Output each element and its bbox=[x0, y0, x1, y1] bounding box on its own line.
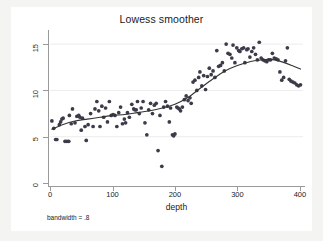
data-point bbox=[104, 106, 108, 110]
lowess-curve bbox=[52, 59, 301, 129]
data-point bbox=[198, 70, 202, 74]
x-tick-label: 400 bbox=[287, 190, 313, 199]
data-point bbox=[233, 61, 237, 65]
data-point bbox=[215, 49, 219, 53]
data-point bbox=[202, 74, 206, 78]
data-point bbox=[164, 100, 168, 104]
data-point bbox=[100, 104, 104, 108]
data-point bbox=[97, 109, 101, 113]
data-point bbox=[134, 108, 138, 112]
data-point bbox=[95, 100, 99, 104]
x-tick-label: 0 bbox=[37, 190, 63, 199]
data-point bbox=[278, 70, 282, 74]
gridlines bbox=[50, 44, 303, 137]
data-point bbox=[149, 102, 153, 106]
data-point bbox=[271, 52, 275, 56]
x-tick-label: 200 bbox=[162, 190, 188, 199]
data-point bbox=[139, 106, 143, 110]
scatter-plot-svg bbox=[50, 33, 303, 183]
data-point bbox=[206, 75, 210, 79]
data-point bbox=[204, 88, 208, 92]
data-point bbox=[130, 102, 134, 106]
data-point bbox=[145, 133, 149, 137]
data-point bbox=[224, 42, 228, 46]
data-point bbox=[160, 164, 164, 168]
x-tick-label: 100 bbox=[100, 190, 126, 199]
data-point bbox=[143, 121, 147, 125]
y-axis-line bbox=[48, 30, 49, 186]
data-point bbox=[108, 100, 112, 104]
data-point bbox=[231, 43, 235, 47]
data-point bbox=[209, 73, 213, 77]
data-point bbox=[221, 61, 225, 65]
y-tick-mark bbox=[43, 183, 48, 184]
data-point bbox=[121, 122, 125, 126]
x-axis-line bbox=[48, 186, 305, 187]
y-tick-label: 5 bbox=[32, 137, 40, 155]
data-point bbox=[211, 69, 215, 73]
data-point bbox=[248, 55, 252, 59]
data-point bbox=[115, 125, 119, 129]
data-point bbox=[167, 120, 171, 124]
data-point bbox=[127, 115, 131, 119]
data-point bbox=[61, 116, 65, 120]
figure-canvas: Lowess smoother Wet hole 1 depth bandwid… bbox=[0, 0, 323, 241]
data-point bbox=[299, 83, 303, 87]
data-point bbox=[50, 119, 54, 123]
data-point bbox=[79, 128, 83, 132]
data-point bbox=[98, 125, 102, 129]
data-point bbox=[207, 66, 211, 70]
data-point bbox=[282, 76, 286, 80]
y-tick-mark bbox=[43, 44, 48, 45]
data-point bbox=[124, 121, 128, 125]
data-point bbox=[156, 149, 160, 153]
data-point bbox=[55, 138, 59, 142]
data-point bbox=[151, 112, 155, 116]
data-point bbox=[179, 109, 183, 113]
data-point bbox=[141, 100, 145, 104]
data-point bbox=[86, 123, 90, 127]
data-point bbox=[117, 111, 121, 115]
data-point bbox=[257, 40, 261, 44]
data-point bbox=[122, 117, 126, 121]
data-point bbox=[189, 102, 193, 106]
y-tick-mark bbox=[43, 137, 48, 138]
data-point bbox=[68, 114, 72, 118]
data-point bbox=[93, 107, 97, 111]
data-point bbox=[89, 112, 93, 116]
data-point bbox=[71, 107, 75, 111]
y-tick-label: 15 bbox=[32, 44, 40, 62]
data-point bbox=[197, 76, 201, 80]
data-point bbox=[254, 52, 258, 56]
data-point bbox=[106, 120, 110, 124]
bandwidth-note: bandwidth = .8 bbox=[47, 214, 89, 221]
data-point bbox=[173, 132, 177, 136]
data-point bbox=[246, 47, 250, 51]
x-tick-label: 300 bbox=[224, 190, 250, 199]
data-point bbox=[242, 46, 246, 50]
chart-title: Lowess smoother bbox=[11, 13, 312, 25]
data-point bbox=[181, 105, 185, 109]
data-point bbox=[154, 102, 158, 106]
data-point bbox=[158, 114, 162, 118]
data-point bbox=[286, 46, 290, 50]
data-point bbox=[119, 105, 123, 109]
data-point bbox=[252, 46, 256, 50]
data-point bbox=[67, 139, 71, 143]
y-tick-mark bbox=[43, 90, 48, 91]
data-point bbox=[136, 100, 140, 104]
data-point bbox=[84, 139, 88, 143]
data-point bbox=[230, 56, 234, 60]
data-point bbox=[83, 125, 87, 129]
data-point bbox=[193, 78, 197, 82]
data-point bbox=[228, 52, 232, 56]
data-point bbox=[250, 50, 254, 54]
plot-area bbox=[50, 33, 303, 183]
y-tick-label: 10 bbox=[32, 90, 40, 108]
x-axis-title: depth bbox=[50, 202, 303, 212]
data-point bbox=[91, 125, 95, 129]
